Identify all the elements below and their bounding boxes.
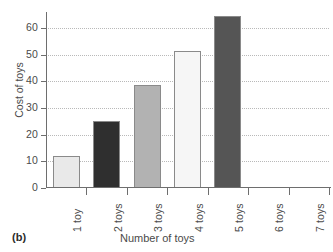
y-axis-tick-label: 10 xyxy=(0,154,38,166)
plot-area xyxy=(46,12,329,188)
y-axis-tick-label: 0 xyxy=(0,181,38,193)
bar xyxy=(214,16,241,188)
x-axis-tick-label: 1 toy xyxy=(71,172,83,232)
y-tick xyxy=(41,28,46,29)
x-tick xyxy=(167,188,168,195)
y-axis-tick-label: 20 xyxy=(0,128,38,140)
y-axis-tick-label: 50 xyxy=(0,48,38,60)
x-axis-tick-label: 7 toys xyxy=(314,172,326,232)
x-axis-tick-label: 2 toys xyxy=(112,172,124,232)
y-axis-line xyxy=(46,12,47,188)
bar xyxy=(174,51,201,188)
y-tick xyxy=(41,81,46,82)
x-axis-tick-label: 3 toys xyxy=(152,172,164,232)
y-axis-tick-label: 60 xyxy=(0,21,38,33)
y-axis-tick-label: 30 xyxy=(0,101,38,113)
x-tick xyxy=(86,188,87,195)
gridline xyxy=(46,28,329,30)
x-axis-tick-label: 5 toys xyxy=(233,172,245,232)
y-tick xyxy=(41,108,46,109)
y-tick xyxy=(41,55,46,56)
figure-panel-b: Cost of toys 0102030405060 1 toy2 toys3 … xyxy=(0,0,333,252)
y-tick xyxy=(41,161,46,162)
x-tick xyxy=(248,188,249,195)
x-axis-title: Number of toys xyxy=(120,232,195,244)
x-tick xyxy=(127,188,128,195)
x-axis-tick-label: 6 toys xyxy=(273,172,285,232)
x-tick xyxy=(329,188,330,195)
y-tick xyxy=(41,188,46,189)
panel-label: (b) xyxy=(12,231,26,243)
x-axis-tick-label: 4 toys xyxy=(193,172,205,232)
y-axis-tick-label: 40 xyxy=(0,74,38,86)
y-tick xyxy=(41,135,46,136)
x-tick xyxy=(208,188,209,195)
x-tick xyxy=(289,188,290,195)
